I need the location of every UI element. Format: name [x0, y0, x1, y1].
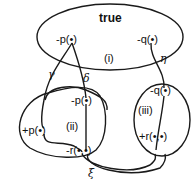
- proof-net-diagram: true -p(•) -q(•) (i) -p(•) +p(•) (ii) -r…: [0, 0, 193, 180]
- region-ii-neg-r: -r(•,•): [66, 144, 91, 156]
- edge-gamma: [42, 43, 72, 128]
- region-ii-label: (ii): [66, 120, 78, 132]
- region-i-title: true: [99, 11, 122, 25]
- region-i-neg-p: -p(•): [56, 33, 77, 45]
- edge-label-gamma: γ: [48, 68, 55, 81]
- region-i-label: (i): [104, 52, 114, 64]
- region-ii-outer-loop: [20, 87, 106, 157]
- region-i-neg-q: -q(•): [137, 33, 158, 45]
- edge-label-eta: η: [160, 52, 167, 65]
- region-iii-neg-q: -q(•): [150, 84, 171, 96]
- region-ii-neg-p: -p(•): [71, 94, 92, 106]
- region-iii-pos-r: +r(•,•): [139, 130, 167, 142]
- edge-label-delta: δ: [83, 72, 90, 85]
- region-iii-label: (iii): [138, 104, 153, 116]
- region-ii-pos-p: +p(•): [22, 124, 46, 136]
- edge-eta: [151, 43, 164, 88]
- edge-label-xi: ξ: [88, 167, 95, 180]
